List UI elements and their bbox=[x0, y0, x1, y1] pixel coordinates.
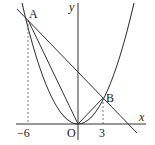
segment-ob bbox=[78, 98, 103, 124]
line-ab bbox=[17, 9, 137, 133]
point-a-label: A bbox=[29, 7, 38, 21]
tick-label-3: 3 bbox=[99, 126, 105, 140]
segment-oa bbox=[28, 20, 78, 124]
diagram-canvas: A B O −6 3 x y bbox=[0, 0, 155, 145]
tick-label-neg6: −6 bbox=[17, 126, 30, 140]
point-b-label: B bbox=[106, 91, 114, 105]
x-axis-label: x bbox=[138, 110, 145, 124]
y-axis-label: y bbox=[68, 0, 75, 14]
origin-label: O bbox=[67, 126, 76, 140]
